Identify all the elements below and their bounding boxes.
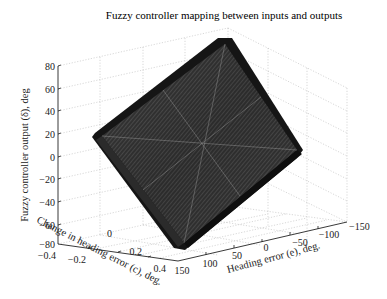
z-axis-label: Fuzzy controller output (δ), deg <box>19 87 31 221</box>
svg-text:−20: −20 <box>39 174 55 185</box>
svg-text:0: 0 <box>264 242 269 253</box>
chart-title: Fuzzy controller mapping between inputs … <box>106 9 342 21</box>
svg-text:−100: −100 <box>319 229 340 240</box>
svg-text:−80: −80 <box>39 239 55 250</box>
svg-text:60: 60 <box>45 84 55 95</box>
surface <box>92 38 303 250</box>
svg-text:20: 20 <box>45 129 55 140</box>
surface-plot: Fuzzy controller mapping between inputs … <box>0 0 387 299</box>
svg-text:80: 80 <box>45 61 55 72</box>
svg-text:150: 150 <box>175 265 190 276</box>
svg-text:0: 0 <box>50 152 55 163</box>
svg-text:−0.4: −0.4 <box>38 250 56 261</box>
svg-text:0.2: 0.2 <box>130 246 143 257</box>
svg-text:100: 100 <box>203 258 218 269</box>
svg-text:−40: −40 <box>39 197 55 208</box>
svg-text:−150: −150 <box>349 221 370 232</box>
svg-text:40: 40 <box>45 106 55 117</box>
svg-text:0: 0 <box>107 228 112 239</box>
svg-text:−0.2: −0.2 <box>68 254 86 265</box>
